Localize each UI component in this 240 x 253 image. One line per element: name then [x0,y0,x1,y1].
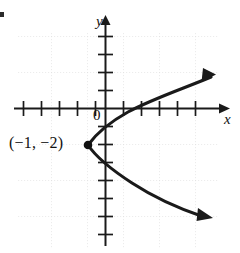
y-axis-label: y [96,14,103,29]
origin-label: 0 [93,108,101,123]
coordinate-plane-svg [0,0,240,253]
vertex-point-marker [84,141,93,150]
graph-figure: y x 0 (−1, −2) [0,0,240,253]
x-axis-label: x [224,112,231,127]
vertex-coordinate-label: (−1, −2) [9,135,63,151]
